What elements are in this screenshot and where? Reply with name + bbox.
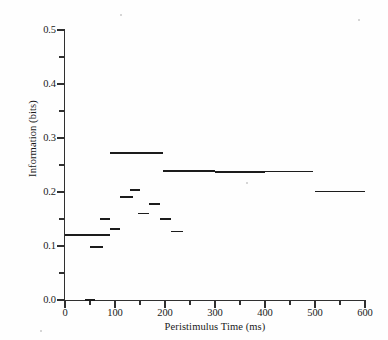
x-tick-minor [289, 300, 290, 305]
x-tick-label: 100 [95, 307, 135, 318]
data-segment [160, 218, 171, 220]
x-tick-label: 600 [345, 307, 385, 318]
data-segment [315, 191, 365, 193]
y-tick-major [57, 191, 65, 192]
scan-speckle [358, 19, 360, 21]
data-segment [85, 299, 95, 301]
data-segment [171, 231, 183, 233]
y-tick-label: 0.0 [16, 295, 56, 306]
data-segment [65, 234, 110, 236]
data-segment [90, 246, 103, 248]
data-segment [120, 196, 133, 198]
y-tick-major [57, 83, 65, 84]
y-tick-label: 0.5 [16, 25, 56, 36]
x-tick-minor [139, 300, 140, 305]
x-tick-label: 0 [45, 307, 85, 318]
data-segment [138, 213, 150, 215]
y-tick-major [57, 29, 65, 30]
scan-speckle [40, 330, 42, 332]
x-tick-label: 300 [195, 307, 235, 318]
plot-area [65, 30, 365, 300]
x-tick-label: 400 [245, 307, 285, 318]
y-tick-label: 0.1 [16, 241, 56, 252]
scan-speckle [120, 14, 122, 16]
data-segment [215, 171, 265, 173]
x-tick-label: 200 [145, 307, 185, 318]
chart-figure: 0.00.10.20.30.40.50100200300400500600 In… [0, 0, 388, 340]
x-tick-minor [239, 300, 240, 305]
y-tick-major [57, 245, 65, 246]
data-segment [265, 171, 313, 173]
data-segment [110, 228, 120, 230]
y-axis-title: Information (bits) [27, 59, 38, 219]
x-tick-minor [339, 300, 340, 305]
data-segment [100, 218, 110, 220]
x-tick-minor [189, 300, 190, 305]
data-segment [130, 189, 140, 191]
y-tick-major [57, 137, 65, 138]
data-segment [163, 170, 216, 172]
x-axis-title: Peristimulus Time (ms) [65, 321, 365, 332]
data-segment [149, 203, 160, 205]
x-tick-label: 500 [295, 307, 335, 318]
data-segment [110, 152, 163, 154]
